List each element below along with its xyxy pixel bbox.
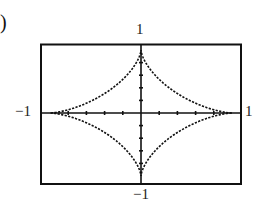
y-min-label: −1 — [133, 187, 149, 202]
x-min-label: −1 — [15, 104, 31, 119]
y-max-label: 1 — [136, 22, 144, 37]
astroid-plot — [0, 0, 262, 211]
x-max-label: 1 — [245, 104, 253, 119]
